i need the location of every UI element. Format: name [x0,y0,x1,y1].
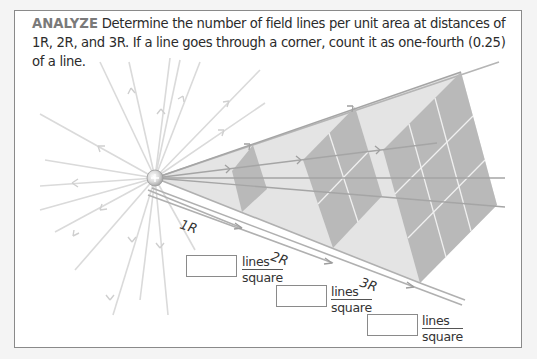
unit-numerator: lines [242,254,283,270]
field-lines-diagram [0,0,537,359]
unit-denominator: square [422,329,463,344]
unit-denominator: square [331,300,372,315]
unit-fraction-1R: lines square [242,254,283,285]
unit-numerator: lines [331,284,372,300]
answer-input-2R[interactable] [276,285,327,307]
answer-input-3R[interactable] [367,314,418,336]
unit-denominator: square [242,270,283,285]
unit-numerator: lines [422,313,463,329]
unit-fraction-2R: lines square [331,284,372,315]
unit-fraction-3R: lines square [422,313,463,344]
answer-input-1R[interactable] [186,255,237,277]
